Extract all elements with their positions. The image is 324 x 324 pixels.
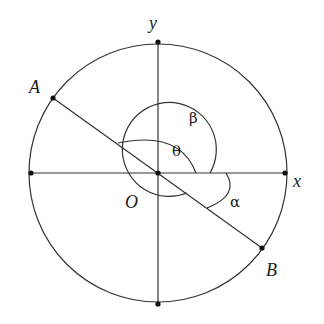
alpha-label: α xyxy=(230,193,240,211)
x-axis-label: x xyxy=(292,171,301,191)
point-a xyxy=(50,95,55,100)
beta-label: β xyxy=(189,109,198,127)
point-bottom xyxy=(155,301,160,306)
point-a-label: A xyxy=(28,77,41,97)
point-origin xyxy=(155,170,160,175)
diagram-svg: y x A B O θ β α xyxy=(0,0,324,324)
point-b-label: B xyxy=(266,260,277,280)
point-top xyxy=(155,39,160,44)
point-b xyxy=(259,245,264,250)
unit-circle-diagram: y x A B O θ β α xyxy=(0,0,324,324)
origin-label: O xyxy=(125,192,138,212)
theta-arc xyxy=(118,140,196,173)
alpha-arc xyxy=(207,173,230,208)
point-right xyxy=(282,170,287,175)
beta-arc xyxy=(122,102,216,196)
y-axis-label: y xyxy=(147,13,157,33)
theta-label: θ xyxy=(172,142,181,160)
point-left xyxy=(28,170,33,175)
